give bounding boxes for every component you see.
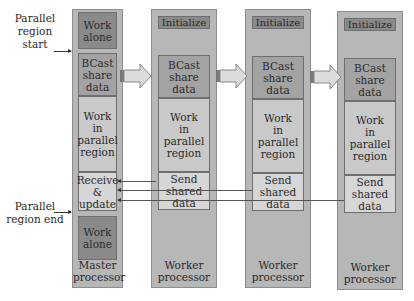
work-alone-top-block: Work alone xyxy=(78,12,117,49)
initialize-block: Initialize xyxy=(344,18,396,31)
initialize-block: Initialize xyxy=(158,16,210,29)
work-alone-bottom-block: Work alone xyxy=(78,216,117,260)
bcast-share-data-block: BCast share data xyxy=(252,56,304,99)
parallel-end-arrow-icon xyxy=(54,212,71,213)
send-shared-data-block: Send shared data xyxy=(344,175,396,213)
work-parallel-region-block: Work in parallel region xyxy=(78,96,117,172)
parallel-start-arrow-icon xyxy=(54,51,71,52)
parallel-region-start-label: Parallel region start xyxy=(4,12,66,51)
work-parallel-region-block: Work in parallel region xyxy=(344,101,396,175)
bcast-share-data-block: BCast share data xyxy=(158,55,210,98)
worker-processor-label: Worker processor xyxy=(338,261,402,285)
worker-processor-label: Worker processor xyxy=(152,259,216,283)
send-shared-data-block: Send shared data xyxy=(158,172,210,210)
bcast-share-data-block: BCast share data xyxy=(344,58,396,101)
broadcast-arrow-icon xyxy=(310,64,342,90)
work-parallel-region-block: Work in parallel region xyxy=(252,99,304,173)
work-parallel-region-block: Work in parallel region xyxy=(158,98,210,172)
send-shared-data-block: Send shared data xyxy=(252,173,304,211)
send-arrow-worker-3-icon xyxy=(118,200,344,201)
send-arrow-worker-1-icon xyxy=(118,181,156,182)
master-processor-label: Master processor xyxy=(73,259,122,283)
worker-processor-column-3: Initialize BCast share data Work in para… xyxy=(337,11,403,290)
worker-processor-column-2: Initialize BCast share data Work in para… xyxy=(245,9,311,288)
worker-processor-label: Worker processor xyxy=(246,259,310,283)
send-arrow-worker-2-icon xyxy=(118,190,252,191)
worker-processor-column-1: Initialize BCast share data Work in para… xyxy=(151,9,217,288)
broadcast-arrow-icon xyxy=(120,63,152,89)
bcast-share-data-block: BCast share data xyxy=(78,53,117,96)
parallel-region-end-label: Parallel region end xyxy=(4,200,66,226)
receive-update-block: Receive & update xyxy=(78,172,117,211)
initialize-block: Initialize xyxy=(252,16,304,29)
master-processor-column: Work alone BCast share data Work in para… xyxy=(72,9,123,288)
broadcast-arrow-icon xyxy=(216,63,248,89)
